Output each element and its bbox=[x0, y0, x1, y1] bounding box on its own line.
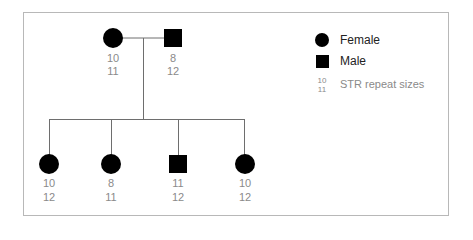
child2-female-circle-icon bbox=[101, 154, 121, 174]
legend-female-label: Female bbox=[340, 33, 380, 47]
legend-male-label: Male bbox=[340, 54, 366, 68]
mother-str-allele-1: 10 bbox=[98, 52, 128, 65]
child2-str-allele-1: 8 bbox=[96, 177, 126, 190]
legend-str-example-2: 11 bbox=[312, 85, 332, 94]
child1-female-circle-icon bbox=[39, 154, 59, 174]
child1-str-allele-2: 12 bbox=[34, 191, 64, 204]
father-male-square-icon bbox=[164, 29, 182, 47]
child2-str-allele-2: 11 bbox=[96, 191, 126, 204]
mother-female-circle-icon bbox=[103, 28, 123, 48]
legend-str-label: STR repeat sizes bbox=[340, 78, 424, 90]
child4-str-allele-1: 10 bbox=[230, 177, 260, 190]
child1-str-allele-1: 10 bbox=[34, 177, 64, 190]
father-str-allele-2: 12 bbox=[158, 65, 188, 78]
child3-male-square-icon bbox=[169, 155, 187, 173]
child3-str-allele-2: 12 bbox=[163, 191, 193, 204]
legend-female-circle-icon bbox=[315, 33, 329, 47]
legend-str-example-1: 10 bbox=[312, 76, 332, 85]
mother-str-allele-2: 11 bbox=[98, 65, 128, 78]
father-str-allele-1: 8 bbox=[158, 52, 188, 65]
child4-str-allele-2: 12 bbox=[230, 191, 260, 204]
legend-male-square-icon bbox=[316, 55, 329, 68]
child3-str-allele-1: 11 bbox=[163, 177, 193, 190]
child4-female-circle-icon bbox=[235, 154, 255, 174]
